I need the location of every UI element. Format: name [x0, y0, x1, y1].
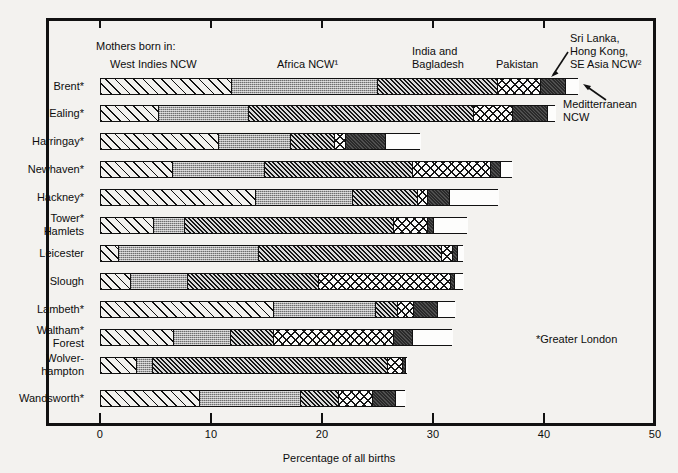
bar-segment-west-indies[interactable] — [101, 134, 219, 149]
bar-segment-india-bangladesh[interactable] — [301, 391, 339, 406]
bar-segment-sri-lanka-hk-se-asia[interactable] — [541, 79, 567, 94]
bar-segment-india-bangladesh[interactable] — [378, 79, 498, 94]
bar-segment-sri-lanka-hk-se-asia[interactable] — [414, 302, 438, 317]
stacked-bar-row-11[interactable] — [100, 390, 405, 407]
bar-segment-africa[interactable] — [119, 246, 259, 261]
bar-segment-mediterranean[interactable] — [406, 358, 408, 373]
bar-segment-sri-lanka-hk-se-asia[interactable] — [394, 330, 413, 345]
bar-segment-pakistan[interactable] — [319, 274, 451, 289]
stacked-bar-row-6[interactable] — [100, 245, 463, 262]
bar-segment-west-indies[interactable] — [101, 391, 200, 406]
bar-segment-africa[interactable] — [232, 79, 379, 94]
bar-segment-sri-lanka-hk-se-asia[interactable] — [428, 190, 449, 205]
bar-segment-mediterranean[interactable] — [434, 218, 468, 233]
row-label-line1: Wandsworth* — [0, 392, 84, 405]
bar-segment-pakistan[interactable] — [394, 218, 428, 233]
bar-segment-india-bangladesh[interactable] — [353, 190, 418, 205]
legend-label-west-indies: West Indies NCW — [110, 58, 197, 70]
bar-segment-west-indies[interactable] — [101, 274, 131, 289]
bar-segment-pakistan[interactable] — [413, 162, 491, 177]
bar-segment-west-indies[interactable] — [101, 358, 137, 373]
bar-segment-africa[interactable] — [154, 218, 185, 233]
stacked-bar-row-4[interactable] — [100, 189, 498, 206]
row-label-line2: hampton — [0, 365, 84, 378]
row-label-line1: Tower* — [0, 212, 84, 225]
bar-segment-sri-lanka-hk-se-asia[interactable] — [346, 134, 386, 149]
bar-segment-pakistan[interactable] — [274, 330, 394, 345]
row-label-line1: Waltham* — [0, 324, 84, 337]
bar-segment-africa[interactable] — [137, 358, 154, 373]
bar-segment-india-bangladesh[interactable] — [188, 274, 319, 289]
bar-segment-mediterranean[interactable] — [566, 79, 579, 94]
stacked-bar-row-10[interactable] — [100, 357, 407, 374]
x-tick-label-30: 30 — [413, 428, 453, 440]
legend-label-india-line1: India and — [412, 45, 457, 57]
bar-segment-pakistan[interactable] — [398, 302, 414, 317]
bar-segment-sri-lanka-hk-se-asia[interactable] — [373, 391, 396, 406]
bar-segment-west-indies[interactable] — [101, 190, 256, 205]
bar-segment-mediterranean[interactable] — [455, 274, 464, 289]
stacked-bar-row-5[interactable] — [100, 217, 467, 234]
bar-segment-pakistan[interactable] — [339, 391, 373, 406]
x-tick-bottom-20 — [321, 413, 323, 423]
bar-segment-west-indies[interactable] — [101, 79, 232, 94]
bar-segment-india-bangladesh[interactable] — [265, 162, 413, 177]
bar-segment-africa[interactable] — [274, 302, 376, 317]
bar-segment-sri-lanka-hk-se-asia[interactable] — [491, 162, 501, 177]
bar-segment-india-bangladesh[interactable] — [153, 358, 388, 373]
stacked-bar-row-1[interactable] — [100, 105, 555, 122]
bar-segment-pakistan[interactable] — [498, 79, 540, 94]
bar-segment-west-indies[interactable] — [101, 302, 274, 317]
bar-segment-mediterranean[interactable] — [548, 106, 556, 121]
bar-segment-india-bangladesh[interactable] — [376, 302, 398, 317]
row-label-line2: Hamlets — [0, 225, 84, 238]
bar-segment-india-bangladesh[interactable] — [231, 330, 274, 345]
bar-segment-pakistan[interactable] — [418, 190, 428, 205]
bar-segment-india-bangladesh[interactable] — [291, 134, 335, 149]
bar-segment-pakistan[interactable] — [442, 246, 453, 261]
x-tick-bottom-0 — [99, 413, 101, 423]
bar-segment-west-indies[interactable] — [101, 106, 159, 121]
legend-label-pakistan: Pakistan — [496, 58, 538, 70]
stacked-bar-row-3[interactable] — [100, 161, 512, 178]
stacked-bar-row-9[interactable] — [100, 329, 452, 346]
row-label-6: Leicester — [0, 247, 84, 260]
bar-segment-africa[interactable] — [219, 134, 291, 149]
bar-segment-mediterranean[interactable] — [386, 134, 420, 149]
bar-segment-africa[interactable] — [159, 106, 249, 121]
bar-segment-west-indies[interactable] — [101, 218, 154, 233]
stacked-bar-row-7[interactable] — [100, 273, 463, 290]
bar-segment-africa[interactable] — [173, 162, 265, 177]
bar-segment-pakistan[interactable] — [388, 358, 402, 373]
x-tick-top-10 — [210, 18, 212, 28]
bar-segment-africa[interactable] — [256, 190, 353, 205]
bar-segment-india-bangladesh[interactable] — [185, 218, 394, 233]
stacked-bar-row-0[interactable] — [100, 78, 578, 95]
legend-label-srilanka-l3: SE Asia NCW² — [570, 58, 642, 70]
bar-segment-mediterranean[interactable] — [458, 246, 464, 261]
bar-segment-west-indies[interactable] — [101, 162, 173, 177]
stacked-bar-row-8[interactable] — [100, 301, 455, 318]
bar-segment-mediterranean[interactable] — [450, 190, 500, 205]
bar-segment-africa[interactable] — [131, 274, 188, 289]
row-label-8: Lambeth* — [0, 303, 84, 316]
legend-label-india-line2: Bagladesh — [412, 58, 464, 70]
bar-segment-west-indies[interactable] — [101, 246, 119, 261]
bar-segment-sri-lanka-hk-se-asia[interactable] — [513, 106, 549, 121]
x-tick-label-20: 20 — [302, 428, 342, 440]
bar-segment-africa[interactable] — [200, 391, 301, 406]
bar-segment-india-bangladesh[interactable] — [259, 246, 442, 261]
plot-frame-right — [653, 18, 656, 426]
bar-segment-mediterranean[interactable] — [501, 162, 513, 177]
stacked-bar-row-2[interactable] — [100, 133, 420, 150]
bar-segment-pakistan[interactable] — [335, 134, 346, 149]
bar-segment-india-bangladesh[interactable] — [249, 106, 474, 121]
row-label-line1: Wolver- — [0, 352, 84, 365]
bar-segment-africa[interactable] — [174, 330, 231, 345]
bar-segment-mediterranean[interactable] — [413, 330, 453, 345]
bar-segment-pakistan[interactable] — [474, 106, 513, 121]
x-tick-bottom-40 — [543, 413, 545, 423]
bar-segment-mediterranean[interactable] — [438, 302, 456, 317]
bar-segment-mediterranean[interactable] — [396, 391, 406, 406]
bar-segment-west-indies[interactable] — [101, 330, 174, 345]
